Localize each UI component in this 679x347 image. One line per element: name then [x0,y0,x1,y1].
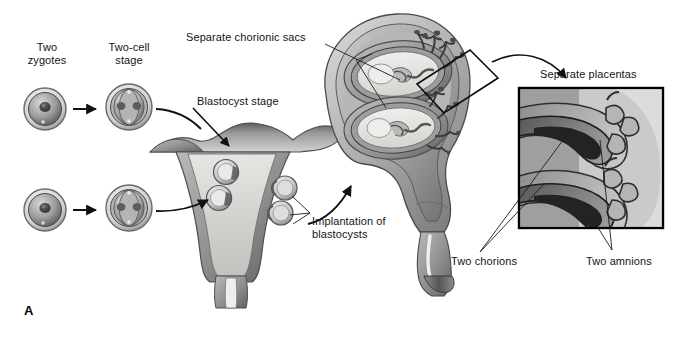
two-cell-bottom-group [106,185,152,231]
zygote-bottom-group [24,189,66,231]
label-two-amnions: Two amnions [586,255,652,268]
label-implantation-of-blastocysts: Implantation of blastocysts [312,215,386,241]
panel-letter: A [24,303,33,318]
label-blastocyst-stage: Blastocyst stage [197,95,279,108]
pregnant-uterus [325,14,470,296]
label-two-zygotes: Two zygotes [12,41,82,67]
zygote-top-group [24,88,66,130]
figure-canvas: Two zygotes Two-cell stage Separate chor… [0,0,679,347]
label-two-cell-stage: Two-cell stage [93,41,165,67]
label-separate-placentas: Separate placentas [540,68,637,81]
label-separate-chorionic-sacs: Separate chorionic sacs [186,31,306,44]
two-cell-top-group [106,84,152,130]
magnification-inset [519,88,663,237]
label-two-chorions: Two chorions [451,255,517,268]
